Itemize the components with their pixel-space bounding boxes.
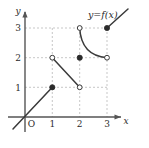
x-tick-label-1: 1 (49, 119, 55, 129)
y-tick-label-3: 3 (15, 23, 21, 33)
marker-filled-3-3 (104, 25, 109, 30)
marker-open-3-2 (105, 55, 110, 60)
marker-open-1-2 (50, 55, 55, 60)
function-graph-figure: y x O 1 2 3 1 2 3 y=f(x) (0, 0, 149, 148)
x-axis-arrowhead (115, 114, 122, 119)
marker-filled-1-1 (50, 85, 55, 90)
y-axis-label: y (14, 6, 21, 16)
curve-segment-middle (52, 58, 79, 88)
x-tick-label-3: 3 (104, 119, 110, 129)
function-label: y=f(x) (87, 9, 118, 20)
marker-open-2-3 (77, 26, 82, 31)
axes (8, 12, 121, 132)
y-tick-label-1: 1 (15, 83, 21, 93)
curve-segment-arc (80, 28, 107, 58)
y-axis-arrowhead (22, 11, 27, 18)
origin-label: O (28, 119, 35, 129)
marker-open-2-1 (77, 85, 82, 90)
function-curve (13, 9, 128, 129)
x-axis-label: x (123, 116, 128, 126)
y-tick-label-2: 2 (15, 53, 21, 63)
x-tick-label-2: 2 (77, 119, 83, 129)
marker-filled-2-2 (77, 55, 82, 60)
